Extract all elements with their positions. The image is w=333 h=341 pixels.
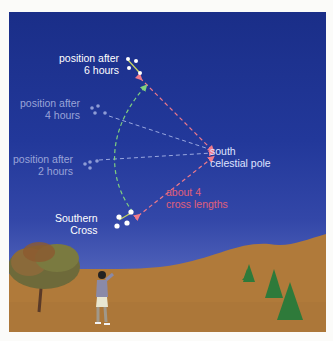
label-line: position after	[20, 97, 80, 109]
label-line: south	[210, 145, 271, 157]
line-2h-to-pole	[99, 153, 212, 160]
label-line: 2 hours	[13, 165, 73, 177]
label-line: position after	[13, 153, 73, 165]
motion-arc	[115, 87, 145, 212]
label-line: position after	[59, 52, 119, 64]
label-position-4h: position after 4 hours	[20, 97, 80, 121]
line-4h-to-pole	[109, 116, 212, 150]
label-line: 6 hours	[59, 64, 119, 76]
label-position-6h: position after 6 hours	[59, 52, 119, 76]
diagram-panel: position after 6 hours position after 4 …	[9, 12, 326, 332]
label-line: Cross	[55, 224, 98, 236]
southern-cross-stars	[114, 209, 133, 228]
label-line: 4 hours	[20, 109, 80, 121]
label-southern-cross: Southern Cross	[55, 212, 98, 236]
label-line: cross lengths	[166, 198, 228, 210]
cross-2h	[83, 159, 99, 170]
label-line: Southern	[55, 212, 98, 224]
pointer-6h	[140, 78, 212, 150]
label-distance: about 4 cross lengths	[166, 186, 228, 210]
label-position-2h: position after 2 hours	[13, 153, 73, 177]
cross-6h	[126, 57, 142, 75]
label-line: about 4	[166, 186, 228, 198]
label-line: celestial pole	[210, 157, 271, 169]
cross-4h	[90, 104, 107, 115]
label-south-celestial-pole: south celestial pole	[210, 145, 271, 169]
